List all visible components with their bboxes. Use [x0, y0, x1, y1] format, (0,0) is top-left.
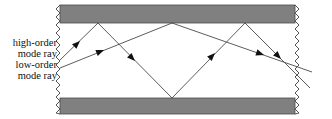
high-order-label-line-2: mode ray: [0, 49, 57, 60]
high-order-label-line-1: high-order: [0, 38, 57, 49]
high-order-mode-ray-label: high-order mode ray: [0, 38, 57, 59]
ray-diagram-figure: high-order mode ray low-order mode ray: [0, 0, 332, 119]
low-order-label-line-1: low-order: [0, 60, 57, 71]
low-order-mode-ray-path: [60, 23, 312, 72]
top-cladding-band: [60, 5, 295, 23]
bottom-cladding-band: [60, 98, 295, 114]
low-order-label-line-2: mode ray: [0, 71, 57, 82]
high-order-mode-ray-path: [60, 23, 310, 98]
right-break-zigzag-icon: [295, 5, 299, 114]
high-order-ray-arrow-3: [207, 51, 217, 61]
low-order-ray-arrow-2: [255, 49, 265, 58]
low-order-mode-ray-label: low-order mode ray: [0, 60, 57, 81]
low-order-ray-arrow-1: [95, 47, 105, 56]
